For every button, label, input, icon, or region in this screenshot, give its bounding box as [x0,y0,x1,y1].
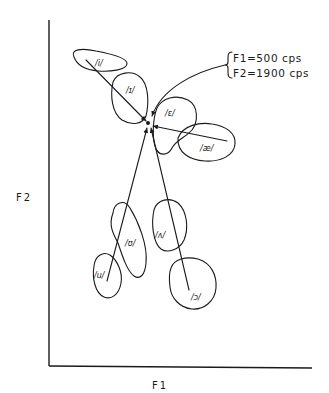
annotation-f1: F1=500 cps [233,52,302,64]
arrow-from-u [107,128,147,281]
annotation-pointer-arrow [152,65,225,116]
x-axis-label: F1 [152,380,168,391]
region-ae [178,123,235,161]
formant-diagram: F2 F1 /i/ /ɪ/ /ɛ/ /æ/ /ʊ/ /u/ /ʌ/ /ɔ/ F1… [0,0,329,393]
arrow-from-ae [153,126,227,141]
vowel-label-eh: /ɛ/ [164,109,176,118]
vowel-label-i: /i/ [94,59,104,68]
region-eh [153,97,196,154]
region-ih [112,73,148,124]
annotation-f2: F2=1900 cps [233,67,309,79]
vowel-label-ih: /ɪ/ [125,86,136,95]
target-point [146,121,150,125]
vowel-label-open-o: /ɔ/ [190,293,202,302]
arrow-from-i [86,60,146,121]
x-axis [49,366,312,368]
vowel-label-u: /u/ [93,271,106,280]
y-axis-label: F2 [16,192,32,203]
annotation-brace [225,52,232,78]
vowel-label-ae: /æ/ [199,144,215,153]
vowel-label-wedge: /ʌ/ [154,231,166,240]
vowel-label-uh-hook: /ʊ/ [124,239,137,248]
